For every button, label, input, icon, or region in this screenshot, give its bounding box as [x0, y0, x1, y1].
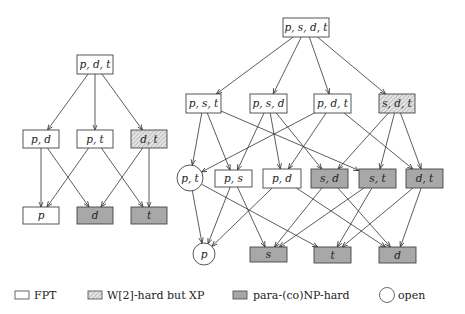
right-edge-psdt-to-pst — [216, 37, 293, 94]
right-node-sdt: s, d, t — [379, 94, 415, 113]
right-edge-sdt-to-sd — [338, 113, 388, 169]
right-edge-st-to-s — [279, 188, 364, 247]
left-node-pt-label: p, t — [86, 133, 104, 145]
legend-paranp: para-(co)NP-hard — [233, 289, 350, 302]
right-node-pt-label: p, t — [181, 172, 199, 184]
right-node-pdt: p, d, t — [314, 94, 351, 113]
right-node-st: s, t — [359, 169, 396, 188]
right-node-psdt-label: p, s, d, t — [284, 21, 328, 33]
legend-fpt-label: FPT — [34, 289, 57, 302]
left-node-pt: p, t — [77, 130, 113, 148]
legend-w2-swatch — [88, 291, 102, 299]
right-node-ps-label: p, s — [224, 172, 243, 184]
legend-open-circle-icon — [380, 288, 395, 303]
legend-fpt-swatch — [15, 291, 29, 299]
right-node-sdt-label: s, d, t — [382, 97, 412, 109]
right-edge-pst-to-ps — [207, 113, 230, 170]
legend-fpt: FPT — [15, 289, 57, 302]
right-node-pd-label: p, d — [272, 172, 292, 184]
right-node-p-label: p — [201, 248, 208, 260]
right-edge-sd-to-s — [275, 188, 322, 247]
right-node-pdt-label: p, d, t — [317, 97, 349, 109]
right-edge-ps-to-s — [237, 187, 265, 247]
legend-paranp-label: para-(co)NP-hard — [253, 289, 350, 302]
right-node-dt-label: d, t — [416, 172, 434, 184]
left-graph: p, d, tp, dp, td, tpdt — [23, 55, 167, 224]
right-edge-pt-to-p — [192, 191, 202, 243]
right-edge-sd-to-d — [338, 188, 390, 247]
right-node-s: s — [250, 247, 287, 262]
left-node-d: d — [77, 207, 113, 224]
right-node-pt: p, t — [177, 165, 203, 191]
right-graph: p, s, d, tp, s, tp, s, dp, d, ts, d, tp,… — [177, 18, 443, 265]
right-node-psd-label: p, s, d — [252, 97, 284, 109]
left-node-pdt: p, d, t — [77, 55, 113, 74]
right-node-pst-label: p, s, t — [189, 97, 219, 109]
left-node-t: t — [131, 207, 167, 224]
right-node-sd-label: s, d — [320, 172, 339, 184]
right-edge-sdt-to-st — [380, 113, 395, 169]
right-edge-ps-to-p — [208, 187, 230, 244]
right-edge-psdt-to-pdt — [309, 37, 329, 94]
right-node-pst: p, s, t — [186, 94, 221, 113]
left-node-p-label: p — [38, 209, 45, 221]
right-edge-psd-to-pd — [270, 113, 280, 169]
right-edge-psdt-to-sdt — [317, 37, 385, 94]
right-edge-psdt-to-psd — [273, 37, 301, 94]
legend-open-label: open — [398, 289, 425, 302]
right-node-p: p — [193, 243, 215, 265]
lattice-diagram: p, d, tp, dp, td, tpdt p, s, d, tp, s, t… — [0, 0, 465, 314]
left-node-dt: d, t — [131, 130, 167, 148]
legend-w2: W[2]-hard but XP — [88, 289, 205, 302]
left-node-pd-label: p, d — [31, 133, 51, 145]
left-edge-pdt-to-dt — [102, 74, 143, 130]
right-node-d-label: d — [394, 249, 401, 261]
right-node-st-label: s, t — [369, 172, 386, 184]
right-edge-dt-to-t — [342, 188, 413, 247]
right-edge-pdt-to-pt — [202, 113, 315, 172]
legend-open: open — [380, 288, 426, 303]
right-edge-dt-to-d — [400, 188, 421, 247]
right-node-dt: d, t — [406, 169, 443, 188]
right-edge-sdt-to-dt — [400, 113, 421, 169]
right-edge-pdt-to-dt — [344, 113, 413, 169]
left-node-dt-label: d, t — [140, 133, 158, 145]
right-edge-pdt-to-pd — [288, 113, 326, 169]
right-node-ps: p, s — [215, 170, 252, 187]
left-node-p: p — [23, 207, 59, 224]
legend-w2-label: W[2]-hard but XP — [107, 289, 205, 302]
legend: FPT W[2]-hard but XP para-(co)NP-hard op… — [15, 288, 425, 303]
right-node-d: d — [379, 247, 416, 263]
left-node-d-label: d — [92, 209, 99, 221]
right-edges — [192, 37, 421, 247]
right-node-s-label: s — [266, 248, 272, 260]
left-node-pd: p, d — [23, 130, 59, 148]
right-node-psdt: p, s, d, t — [283, 18, 329, 37]
right-node-sd: s, d — [311, 169, 348, 188]
left-node-pdt-label: p, d, t — [79, 58, 111, 70]
right-edge-pst-to-pt — [192, 113, 201, 165]
right-edge-st-to-t — [337, 188, 372, 247]
legend-paranp-swatch — [233, 291, 247, 299]
right-node-pd: p, d — [263, 169, 301, 188]
right-edge-pd-to-d — [296, 188, 385, 247]
left-edge-pdt-to-pd — [48, 74, 89, 130]
right-node-psd: p, s, d — [250, 94, 287, 113]
right-node-t: t — [314, 247, 351, 263]
